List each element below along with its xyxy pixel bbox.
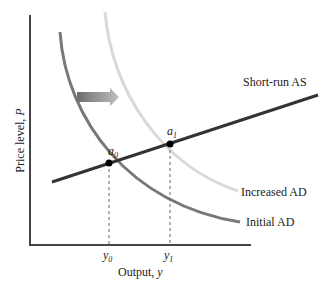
increased-ad-curve xyxy=(105,12,238,191)
initial-ad-label: Initial AD xyxy=(246,215,294,230)
label-a1: a1 xyxy=(167,124,177,140)
point-a0 xyxy=(106,160,113,167)
tick-y0-sub: 0 xyxy=(108,255,112,264)
y-axis-label-var: P xyxy=(13,108,27,115)
point-a1 xyxy=(167,141,174,148)
short-run-as-line xyxy=(52,95,318,182)
label-a0: a0 xyxy=(108,144,118,160)
increased-ad-label: Increased AD xyxy=(241,185,307,200)
y-axis-label-text: Price level, xyxy=(13,116,27,173)
x-axis-label-var: y xyxy=(157,265,162,279)
tick-y0: y0 xyxy=(103,248,112,264)
label-a1-sub: 1 xyxy=(173,131,177,140)
x-axis-label: Output, y xyxy=(118,265,163,280)
tick-y1: y1 xyxy=(164,248,173,264)
shift-arrow-icon xyxy=(77,88,119,106)
diagram-canvas xyxy=(0,0,327,286)
y-axis-label: Price level, P xyxy=(13,91,28,191)
x-axis-label-text: Output, xyxy=(118,265,157,279)
label-a0-sub: 0 xyxy=(114,151,118,160)
short-run-as-label: Short-run AS xyxy=(243,75,307,90)
tick-y1-sub: 1 xyxy=(169,255,173,264)
ad-as-diagram: Price level, P Output, y y0 y1 a0 a1 Sho… xyxy=(0,0,327,286)
